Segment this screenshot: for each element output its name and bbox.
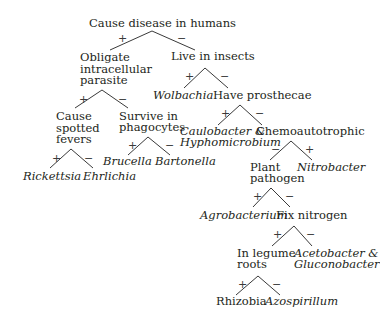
taxon-rickettsia: Rickettsia: [23, 171, 81, 183]
taxon-rhizobia: Rhizobia: [216, 296, 267, 308]
plus-sign-survive: +: [128, 140, 137, 151]
taxon-ehrlichia: Ehrlichia: [83, 171, 136, 183]
plus-sign-chemo: +: [305, 144, 314, 155]
minus-sign-root: −: [177, 33, 186, 44]
taxon-nitrobacter: Nitrobacter: [297, 162, 365, 174]
minus-sign-spotted: −: [84, 153, 93, 164]
plus-sign-spotted: +: [52, 153, 61, 164]
node-cause-disease-in-humans: Cause disease in humans: [89, 18, 236, 30]
node-live-in-insects: Live in insects: [171, 51, 255, 63]
taxon-brucella: Brucella: [103, 156, 152, 168]
node-have-prosthecae: Have prosthecae: [213, 90, 311, 102]
minus-sign-obligate: −: [118, 94, 127, 105]
plus-sign-root: +: [118, 33, 127, 44]
plus-sign-insects: +: [185, 71, 194, 82]
minus-sign-survive: −: [165, 140, 174, 151]
plus-sign-legume: +: [238, 279, 247, 290]
node-in-legume-line2: roots: [237, 259, 267, 271]
plus-sign-fix-nitrogen: +: [273, 229, 282, 240]
taxon-gluconobacter: Gluconobacter: [294, 259, 380, 271]
minus-sign-prosthecae: −: [255, 108, 264, 119]
taxon-wolbachia: Wolbachia: [153, 90, 213, 102]
minus-sign-plant: −: [285, 191, 294, 202]
taxon-azospirillum: Azospirillum: [265, 296, 338, 308]
minus-sign-fix-nitrogen: −: [306, 229, 315, 240]
taxon-hyphomicrobium: Hyphomicrobium: [180, 137, 281, 149]
node-survive-line2: phagocytes: [119, 122, 185, 134]
node-plant-pathogen-line2: pathogen: [250, 173, 305, 185]
taxon-bartonella: Bartonella: [155, 156, 216, 168]
node-spotted-line3: fevers: [56, 134, 92, 146]
minus-sign-chemo: −: [271, 144, 280, 155]
plus-sign-prosthecae: +: [221, 108, 230, 119]
plus-sign-obligate: +: [79, 94, 88, 105]
node-obligate-line3: parasite: [80, 75, 128, 87]
taxon-agrobacterium: Agrobacterium: [200, 210, 288, 222]
plus-sign-plant: +: [253, 191, 262, 202]
minus-sign-insects: −: [220, 71, 229, 82]
minus-sign-legume: −: [272, 279, 281, 290]
